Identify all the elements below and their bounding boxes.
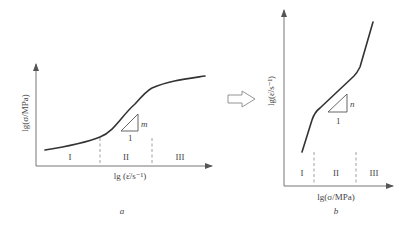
panel-a-stress-strainrate-curve [45, 76, 205, 150]
panel-b-slope-label: n [350, 99, 355, 109]
panel-a-region-3: III [176, 152, 185, 162]
panel-b-x-label: lg(σ/MPa) [317, 192, 354, 202]
panel-b-strainrate-stress-curve [302, 22, 373, 152]
panel-a-slope-label: m [141, 119, 148, 129]
panel-b-region-3: III [370, 168, 379, 178]
panel-b: n 1 I II III lg(σ/MPa) lg(ε̇/s⁻¹) b [266, 10, 393, 216]
panel-a-region-2: II [123, 152, 129, 162]
panel-a-slope-run: 1 [128, 133, 133, 143]
panel-b-y-label: lg(ε̇/s⁻¹) [266, 76, 276, 106]
panel-b-region-1: I [301, 168, 304, 178]
panel-a-x-label: lg (ε̇/s⁻¹) [114, 171, 146, 181]
panel-a: m 1 I II III lg (ε̇/s⁻¹) lg(σ/MPa) a [20, 64, 212, 216]
panel-b-region-2: II [333, 168, 339, 178]
diagram-canvas: m 1 I II III lg (ε̇/s⁻¹) lg(σ/MPa) a n 1… [0, 0, 413, 228]
panel-a-region-1: I [69, 152, 72, 162]
panel-a-y-label: lg(σ/MPa) [20, 94, 30, 131]
panel-b-slope-run: 1 [336, 116, 341, 126]
panel-b-caption: b [334, 206, 339, 216]
hollow-right-arrow-icon [228, 91, 255, 107]
panel-a-caption: a [120, 206, 125, 216]
